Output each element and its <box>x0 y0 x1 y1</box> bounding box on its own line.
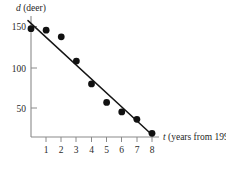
x-tick-label-2: 2 <box>59 145 64 155</box>
data-point <box>103 99 110 106</box>
data-point <box>133 116 140 123</box>
data-point <box>118 109 125 116</box>
data-point <box>28 25 35 32</box>
data-point <box>73 58 80 65</box>
data-point-group <box>28 25 156 136</box>
plot-canvas: 150 100 50 1 2 3 4 5 6 7 8 d (deer) t (y… <box>0 0 226 169</box>
x-tick-label-1: 1 <box>44 145 49 155</box>
y-tick-label-150: 150 <box>12 22 27 32</box>
data-point <box>58 33 65 40</box>
x-axis-title: t (years from 1992) <box>163 132 226 143</box>
x-tick-label-3: 3 <box>74 145 79 155</box>
y-tick-label-100: 100 <box>12 64 27 74</box>
x-tick-label-6: 6 <box>119 145 124 155</box>
x-tick-label-5: 5 <box>104 145 109 155</box>
data-point <box>43 27 50 34</box>
x-tick-label-8: 8 <box>150 145 155 155</box>
deer-population-figure: 150 100 50 1 2 3 4 5 6 7 8 d (deer) t (y… <box>0 0 226 169</box>
data-point <box>88 81 95 88</box>
x-tick-label-4: 4 <box>89 145 94 155</box>
x-tick-label-7: 7 <box>135 145 140 155</box>
data-point <box>149 130 156 137</box>
y-tick-label-50: 50 <box>17 104 27 114</box>
y-axis-title: d (deer) <box>16 3 46 14</box>
x-axis-ticks <box>46 137 152 142</box>
x-axis-unit: (years from 1992) <box>168 132 226 143</box>
y-axis-unit: (deer) <box>23 3 46 14</box>
y-axis-ticks <box>31 27 37 109</box>
